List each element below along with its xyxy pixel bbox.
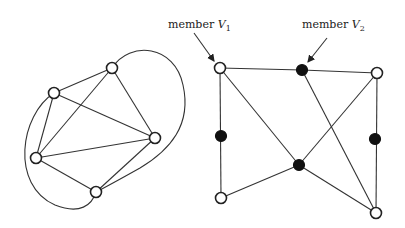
edge	[36, 68, 112, 158]
edge	[36, 93, 54, 158]
right-graph: member V1 member V2	[168, 18, 383, 219]
label-member-v1: member V1	[168, 18, 231, 33]
edge	[54, 93, 155, 138]
edge	[302, 70, 376, 213]
vertex-filled	[294, 160, 305, 171]
vertex-filled	[370, 134, 381, 145]
edge	[36, 158, 96, 192]
curved-edge-outer-left	[25, 93, 96, 209]
vertex-open	[107, 63, 118, 74]
arrow-v1	[194, 33, 214, 61]
edge	[221, 165, 299, 198]
edge	[302, 70, 377, 73]
vertex-open	[150, 133, 161, 144]
vertex-open	[216, 193, 227, 204]
vertex-open	[31, 153, 42, 164]
vertex-v1-open	[215, 63, 226, 74]
vertex-open	[91, 187, 102, 198]
edge	[220, 68, 302, 70]
left-graph	[25, 50, 185, 209]
label-member-v2: member V2	[302, 18, 365, 33]
edge	[299, 165, 376, 213]
vertex-open	[372, 68, 383, 79]
vertex-open	[371, 208, 382, 219]
vertex-v2-filled	[297, 65, 308, 76]
diagram-canvas: member V1 member V2	[0, 0, 405, 228]
vertex-filled	[216, 131, 227, 142]
vertex-open	[49, 88, 60, 99]
edge	[112, 68, 155, 138]
edge	[54, 68, 112, 93]
edge	[220, 68, 299, 165]
arrow-v2	[308, 38, 327, 62]
